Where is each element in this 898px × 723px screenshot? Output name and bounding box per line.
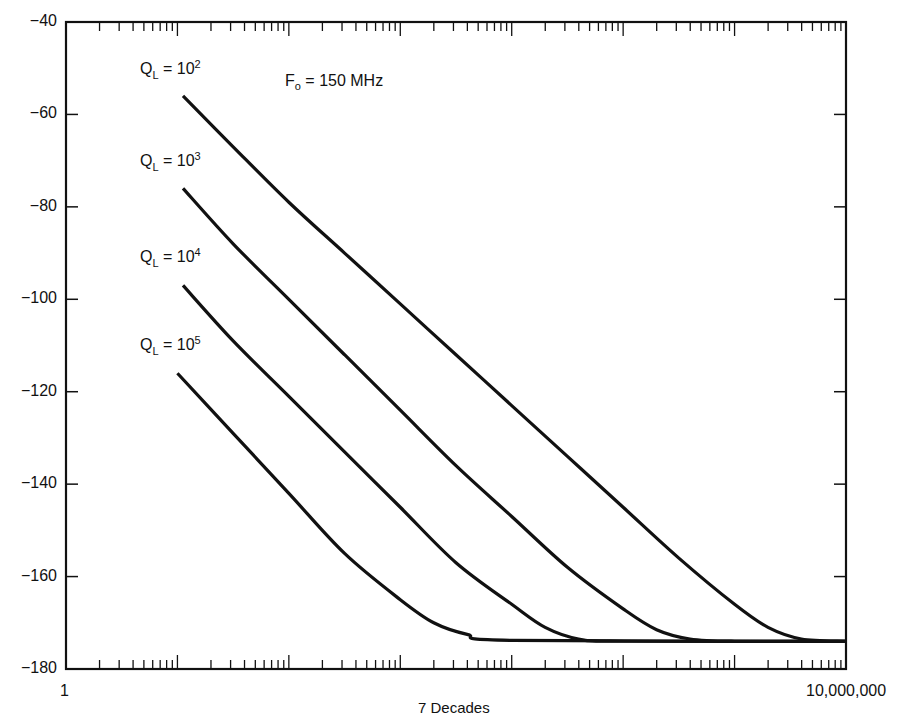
series-label-q4: QL = 104 [140,246,201,269]
y-tick-label: −80 [7,197,57,215]
series-line-q3 [183,188,846,641]
series-line-q4 [183,285,846,641]
series-line-q5 [177,373,846,641]
series-label-q2: QL = 102 [140,58,201,81]
series-label-q5: QL = 105 [140,334,201,357]
y-tick-label: −160 [7,567,57,585]
chart-plot-area [0,0,898,723]
frequency-annotation: Fo = 150 MHz [285,72,383,92]
y-tick-label: −100 [7,289,57,307]
x-tick-label-right: 10,000,000 [806,682,886,700]
series-label-q3: QL = 103 [140,150,201,173]
y-tick-label: −60 [7,104,57,122]
y-tick-label: −40 [7,12,57,30]
x-axis-label: 7 Decades [418,699,490,716]
y-tick-label: −140 [7,474,57,492]
x-tick-label-left: 1 [60,682,69,700]
y-tick-label: −120 [7,382,57,400]
y-tick-label: −180 [7,659,57,677]
series-line-q2 [183,96,846,641]
